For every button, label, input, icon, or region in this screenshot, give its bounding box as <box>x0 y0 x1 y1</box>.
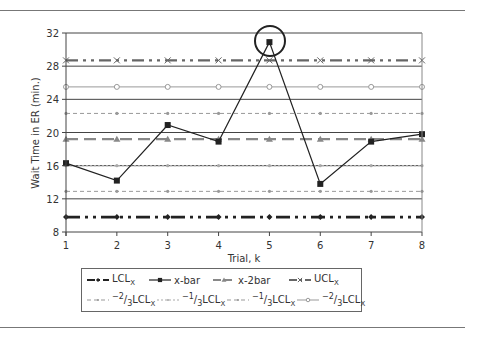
y-tick-label: 20 <box>46 128 59 139</box>
legend-label: x-bar <box>174 275 200 286</box>
y-tick-label: 16 <box>46 161 59 172</box>
legend: LCLXx-barx-2barUCLX −2/3LCLX−1/3LCLX−1/3… <box>81 268 362 312</box>
x-tick-label: 1 <box>63 240 69 251</box>
legend-item: x-bar <box>148 271 212 289</box>
series-4 <box>64 190 423 193</box>
y-tick-label: 28 <box>46 61 59 72</box>
x-tick-label: 8 <box>419 240 425 251</box>
legend-swatch <box>156 295 180 305</box>
legend-label: LCLX <box>112 273 135 287</box>
x-tick-label: 4 <box>215 240 221 251</box>
series-3 <box>63 57 425 63</box>
x-axis-title: Trial, k <box>227 253 261 264</box>
y-tick-label: 24 <box>46 94 59 105</box>
x-tick-label: 2 <box>114 240 120 251</box>
series-0 <box>63 214 425 220</box>
legend-row-2: −2/3LCLX−1/3LCLX−1/3LCLX−2/3LCLX <box>86 291 366 309</box>
legend-swatch <box>148 275 172 285</box>
legend-item: −2/3LCLX <box>86 291 156 309</box>
legend-item: LCLX <box>86 271 148 289</box>
legend-item: −1/3LCLX <box>156 291 226 309</box>
legend-swatch <box>226 295 250 305</box>
legend-swatch <box>86 295 110 305</box>
legend-swatch <box>212 275 236 285</box>
legend-item: x-2bar <box>212 271 288 289</box>
legend-row-1: LCLXx-barx-2barUCLX <box>86 271 358 289</box>
x-tick-label: 5 <box>266 240 272 251</box>
y-tick-label: 8 <box>53 227 59 238</box>
legend-label: −2/3LCLX <box>322 292 365 308</box>
legend-label: −2/3LCLX <box>112 292 155 308</box>
x-tick-label: 6 <box>317 240 323 251</box>
x-tick-label: 7 <box>368 240 374 251</box>
legend-swatch <box>296 295 320 305</box>
legend-item: −2/3LCLX <box>296 291 366 309</box>
legend-label: −1/3LCLX <box>252 292 295 308</box>
y-axis-title: Wait Time in ER (min.) <box>30 77 41 189</box>
series-6 <box>64 112 423 115</box>
x-tick-label: 3 <box>165 240 171 251</box>
legend-label: UCLX <box>314 273 339 287</box>
legend-swatch <box>86 275 110 285</box>
legend-item: UCLX <box>288 271 358 289</box>
series-5 <box>64 164 423 167</box>
y-tick-label: 32 <box>46 28 59 39</box>
series-7 <box>64 84 425 89</box>
legend-swatch <box>288 275 312 285</box>
y-tick-label: 12 <box>46 194 59 205</box>
legend-label: −1/3LCLX <box>182 292 225 308</box>
legend-label: x-2bar <box>238 275 270 286</box>
legend-item: −1/3LCLX <box>226 291 296 309</box>
